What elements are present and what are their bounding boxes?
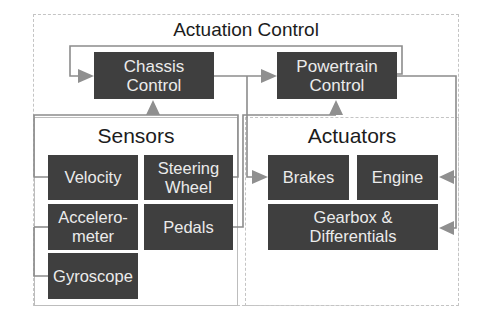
arrow-into-chassis-left (78, 69, 94, 83)
arrow-into-chassis-bottom (146, 100, 160, 115)
arrow-into-powertrain-left (261, 69, 277, 83)
brakes-actuator-block: Brakes (268, 155, 349, 200)
pedals-sensor-block: Pedals (144, 204, 233, 250)
engine-actuator-block: Engine (357, 155, 438, 200)
arrow-into-engine (439, 170, 454, 184)
steering-wheel-sensor-block: Steering Wheel (144, 155, 233, 200)
accelerometer-sensor-block: Accelero- meter (48, 204, 138, 250)
arrow-into-powertrain-bottom (329, 100, 343, 115)
powertrain-control-block: Powertrain Control (277, 52, 397, 99)
gearbox-differentials-actuator-block: Gearbox & Differentials (268, 204, 438, 250)
arrow-into-brakes (252, 170, 268, 184)
gyroscope-sensor-block: Gyroscope (48, 253, 138, 299)
chassis-control-block: Chassis Control (94, 52, 214, 99)
arrow-into-gearbox (439, 221, 454, 235)
velocity-sensor-block: Velocity (48, 155, 138, 200)
